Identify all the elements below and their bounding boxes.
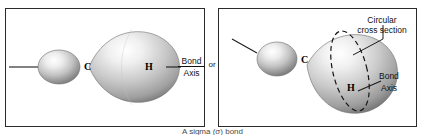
carbon-label: C (301, 55, 308, 65)
cross-section-annotation: Circular cross section (336, 15, 425, 35)
bond-axis-line2: Axis (379, 81, 399, 93)
cross-section-line1: Circular (336, 15, 425, 25)
hydrogen-label: H (347, 83, 355, 93)
small-orbital-lobe (38, 50, 80, 84)
or-connector-label: or (206, 60, 218, 69)
figure-container: C H Bond Axis or (0, 0, 425, 135)
hydrogen-label: H (145, 62, 153, 72)
carbon-label: C (84, 62, 91, 72)
cross-section-line2: cross section (336, 25, 425, 35)
panel-side-view: C H Bond Axis (5, 8, 205, 127)
bond-axis-line1: Bond (178, 56, 205, 67)
bond-axis-annotation: Bond Axis (178, 56, 205, 78)
panel-perspective-view: C H Circular cross section Bond Axis (218, 8, 417, 127)
large-teardrop-lobe (89, 32, 180, 103)
bond-line-left (232, 39, 257, 53)
bond-axis-line1: Bond (379, 71, 399, 81)
side-view-illustration (6, 9, 204, 126)
bond-axis-annotation: Bond Axis (379, 71, 399, 93)
bond-axis-line2: Axis (178, 67, 205, 78)
figure-caption: A sigma (σ) bond (0, 127, 425, 135)
small-orbital-lobe (257, 42, 297, 76)
